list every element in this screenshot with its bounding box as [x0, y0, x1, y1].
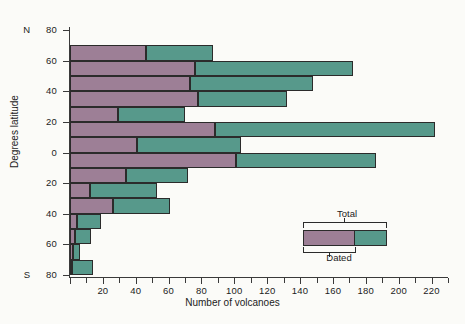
x-tick — [448, 278, 449, 283]
bar-segment-total — [118, 107, 185, 122]
bar-segment-dated — [70, 198, 113, 213]
bar-row — [70, 45, 448, 60]
x-tick-label: 160 — [318, 285, 348, 296]
legend-swatch-bar — [303, 230, 387, 246]
x-tick — [267, 278, 268, 284]
bar-segment-dated — [70, 244, 73, 259]
y-tick-label: 60 — [31, 55, 57, 66]
y-tick — [63, 61, 69, 62]
x-tick — [86, 278, 87, 283]
legend-swatch-total — [354, 230, 387, 246]
x-tick — [152, 278, 153, 283]
y-tick-label: 20 — [31, 177, 57, 188]
x-tick — [234, 278, 235, 284]
bar-segment-total — [77, 214, 102, 229]
bar-segment-dated — [70, 168, 126, 183]
legend-label-total: Total — [295, 208, 399, 219]
x-tick — [432, 278, 433, 284]
legend-brace-total-nub — [344, 218, 345, 223]
legend-swatch-dated — [303, 230, 355, 246]
bar-row — [70, 107, 448, 122]
x-tick-label: 140 — [285, 285, 315, 296]
x-tick — [333, 278, 334, 284]
bar-segment-dated — [70, 76, 190, 91]
bar-segment-total — [236, 153, 376, 168]
bar-segment-dated — [70, 153, 236, 168]
x-tick — [119, 278, 120, 283]
bar-segment-total — [137, 137, 241, 152]
bar-row — [70, 76, 448, 91]
y-tick — [63, 183, 69, 184]
y-axis-hemisphere-north: N — [16, 24, 30, 35]
y-tick-label: 80 — [31, 269, 57, 280]
bar-segment-dated — [70, 214, 77, 229]
bar-segment-total — [73, 244, 80, 259]
x-tick — [366, 278, 367, 284]
bar-segment-dated — [70, 61, 195, 76]
x-tick — [201, 278, 202, 284]
bar-row — [70, 91, 448, 106]
x-tick-label: 200 — [384, 285, 414, 296]
bar-segment-dated — [70, 260, 72, 275]
y-tick — [63, 244, 69, 245]
x-tick — [399, 278, 400, 284]
bar-row — [70, 168, 448, 183]
bar-segment-total — [113, 198, 171, 213]
y-tick-label: 40 — [31, 85, 57, 96]
x-axis-title: Number of volcanoes — [0, 297, 465, 308]
y-tick-label: 20 — [31, 116, 57, 127]
bar-segment-total — [190, 76, 313, 91]
legend-label-dated: Dated — [287, 252, 391, 263]
bar-row — [70, 122, 448, 137]
bar-segment-total — [126, 168, 188, 183]
y-tick-label: 80 — [31, 24, 57, 35]
bar-segment-dated — [70, 122, 215, 137]
x-tick — [251, 278, 252, 283]
x-tick — [284, 278, 285, 283]
x-tick-label: 220 — [417, 285, 447, 296]
y-tick-label: 40 — [31, 208, 57, 219]
x-tick — [218, 278, 219, 283]
x-tick-label: 120 — [252, 285, 282, 296]
x-tick — [136, 278, 137, 284]
bar-segment-total — [72, 260, 93, 275]
legend: Total Dated — [295, 210, 399, 264]
x-tick — [317, 278, 318, 283]
bar-row — [70, 183, 448, 198]
volcano-latitude-chart: 20406080100120140160180200220 8060402002… — [0, 0, 465, 324]
y-tick — [63, 153, 69, 154]
bar-segment-dated — [70, 229, 75, 244]
bar-segment-dated — [70, 91, 198, 106]
bar-segment-dated — [70, 45, 146, 60]
x-tick — [349, 278, 350, 283]
x-tick — [185, 278, 186, 283]
bar-segment-total — [195, 61, 353, 76]
y-tick — [63, 275, 69, 276]
x-tick-label: 40 — [121, 285, 151, 296]
x-tick-label: 100 — [219, 285, 249, 296]
x-tick — [382, 278, 383, 283]
x-tick — [300, 278, 301, 284]
y-tick-label: 60 — [31, 238, 57, 249]
y-tick-label: 0 — [31, 147, 57, 158]
bar-segment-total — [146, 45, 213, 60]
bar-segment-total — [90, 183, 157, 198]
bar-segment-total — [215, 122, 435, 137]
x-tick — [70, 278, 71, 284]
x-tick — [415, 278, 416, 283]
x-tick — [103, 278, 104, 284]
x-tick-label: 180 — [351, 285, 381, 296]
y-tick — [63, 91, 69, 92]
bar-row — [70, 61, 448, 76]
x-tick-label: 60 — [154, 285, 184, 296]
bar-row — [70, 153, 448, 168]
legend-brace-total — [303, 222, 387, 228]
x-tick — [169, 278, 170, 284]
bar-segment-dated — [70, 107, 118, 122]
x-tick-label: 80 — [186, 285, 216, 296]
y-axis-hemisphere-south: S — [16, 269, 30, 280]
y-tick — [63, 122, 69, 123]
y-axis-title: Degrees latitude — [9, 52, 20, 212]
bar-segment-total — [198, 91, 287, 106]
bar-segment-total — [75, 229, 91, 244]
